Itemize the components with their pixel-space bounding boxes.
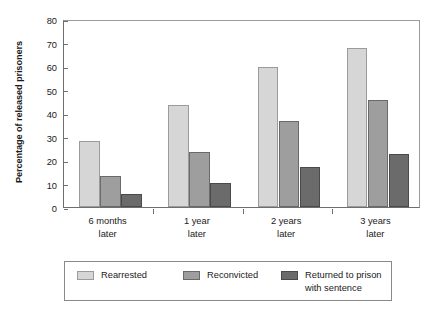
y-axis-tick-label: 40 <box>30 109 64 121</box>
y-axis-tick-text: 50 <box>30 86 64 98</box>
x-axis-separator-tick <box>153 209 154 214</box>
legend-entry-1[interactable]: Reconvicted <box>183 269 258 282</box>
plot-area: 01020304050607080 <box>63 20 420 208</box>
y-axis-tick-mark <box>64 68 68 69</box>
x-axis-separator-tick <box>332 209 333 214</box>
x-axis-category-line: 2 years <box>271 216 302 226</box>
y-axis-tick-label: 10 <box>30 180 64 192</box>
legend-swatch-returned-to-prison <box>281 271 298 280</box>
x-axis-separator-tick <box>243 209 244 214</box>
legend-swatch-rearrested <box>77 271 94 280</box>
y-axis-tick-label: 80 <box>30 15 64 27</box>
y-axis-tick-mark <box>64 209 68 210</box>
y-axis-tick-label: 0 <box>30 203 64 215</box>
legend-label: Rearrested <box>101 269 147 282</box>
x-axis-category-line: 6 months <box>89 216 127 226</box>
y-axis-tick-mark <box>64 21 68 22</box>
bar-1-2 <box>279 121 300 207</box>
bar-1-0 <box>100 176 121 207</box>
y-axis-tick-label: 20 <box>30 156 64 168</box>
x-axis-category-line: 1 year <box>184 216 210 226</box>
chart-legend: RearrestedReconvictedReturned to prison … <box>64 261 392 301</box>
bar-2-3 <box>389 154 410 207</box>
x-axis-category-label: 3 yearslater <box>331 215 420 240</box>
x-axis-category-line: later <box>63 228 152 241</box>
y-axis-tick-mark <box>64 162 68 163</box>
x-axis-category-label: 1 yearlater <box>152 215 241 240</box>
y-axis-tick-mark <box>64 44 68 45</box>
y-axis-title: Percentage of released prisoners <box>14 17 24 207</box>
y-axis-tick-text: 80 <box>30 15 64 27</box>
y-axis-tick-mark <box>64 138 68 139</box>
bar-2-0 <box>121 194 142 207</box>
bar-0-2 <box>258 67 279 207</box>
legend-label: Reconvicted <box>207 269 258 282</box>
bar-1-1 <box>189 152 210 207</box>
x-axis-category-label: 6 monthslater <box>63 215 152 240</box>
y-axis-tick-mark <box>64 91 68 92</box>
bar-chart-figure: Percentage of released prisoners 0102030… <box>0 0 443 311</box>
x-axis-category-line: later <box>242 228 331 241</box>
bar-1-3 <box>368 100 389 207</box>
y-axis-tick-text: 30 <box>30 133 64 145</box>
bar-0-0 <box>79 141 100 208</box>
legend-entry-2[interactable]: Returned to prison with sentence <box>281 269 382 294</box>
y-axis-tick-mark <box>64 115 68 116</box>
legend-label: Returned to prison with sentence <box>305 269 382 294</box>
y-axis-tick-mark <box>64 185 68 186</box>
x-axis-category-line: later <box>331 228 420 241</box>
bar-0-3 <box>347 48 368 207</box>
y-axis-tick-label: 60 <box>30 62 64 74</box>
y-axis-tick-text: 20 <box>30 156 64 168</box>
x-axis-category-line: 3 years <box>360 216 391 226</box>
y-axis-tick-label: 70 <box>30 39 64 51</box>
legend-swatch-reconvicted <box>183 271 200 280</box>
y-axis-tick-text: 70 <box>30 39 64 51</box>
legend-entry-0[interactable]: Rearrested <box>77 269 147 282</box>
y-axis-tick-label: 50 <box>30 86 64 98</box>
y-axis-tick-text: 10 <box>30 180 64 192</box>
y-axis-tick-text: 0 <box>30 203 64 215</box>
bar-2-1 <box>210 183 231 207</box>
x-axis-category-label: 2 yearslater <box>242 215 331 240</box>
y-axis-tick-text: 40 <box>30 109 64 121</box>
y-axis-tick-label: 30 <box>30 133 64 145</box>
x-axis-category-line: later <box>152 228 241 241</box>
bar-0-1 <box>168 105 189 207</box>
bar-2-2 <box>300 167 321 207</box>
y-axis-tick-text: 60 <box>30 62 64 74</box>
